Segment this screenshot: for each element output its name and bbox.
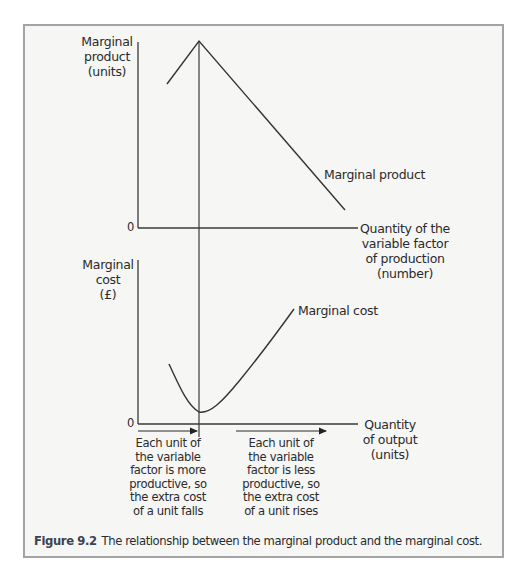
marginal-product-curve-label: Marginal product (324, 167, 425, 182)
marginal-cost-curve (169, 309, 294, 412)
top-x-axis-label: Quantity of the variable factor of produ… (354, 221, 456, 281)
left-annotation-line: factor is more (126, 464, 210, 478)
top-x-axis-label-line: (number) (354, 266, 456, 281)
top-y-axis-label: Marginal product (units) (78, 34, 136, 79)
right-annotation-line: the extra cost (239, 491, 323, 505)
right-annotation-line: Each unit of (239, 437, 323, 451)
right-annotation-line: productive, so (239, 478, 323, 492)
bottom-y-axis-label-line: (£) (82, 287, 134, 302)
bottom-x-axis-label-line: of output (356, 432, 424, 447)
left-annotation-line: Each unit of (126, 437, 210, 451)
bottom-y-axis-label: Marginal cost (£) (82, 257, 134, 302)
figure-caption: Figure 9.2The relationship between the m… (34, 534, 494, 548)
right-annotation-line: of a unit rises (239, 505, 323, 519)
right-annotation: Each unit of the variable factor is less… (239, 437, 323, 518)
bottom-x-axis-label-line: Quantity (356, 417, 424, 432)
top-x-axis-label-line: of production (354, 251, 456, 266)
top-x-axis-label-line: Quantity of the (354, 221, 456, 236)
marginal-cost-curve-label: Marginal cost (298, 303, 378, 318)
bottom-chart-axes (138, 260, 358, 424)
top-y-axis-label-line: product (78, 49, 136, 64)
left-annotation-line: the extra cost (126, 491, 210, 505)
top-chart-axes (138, 42, 358, 228)
bottom-y-axis-label-line: Marginal (82, 257, 134, 272)
bottom-y-axis-label-line: cost (82, 272, 134, 287)
left-annotation-line: the variable (126, 451, 210, 465)
right-annotation-line: factor is less (239, 464, 323, 478)
left-annotation-line: of a unit falls (126, 505, 210, 519)
left-annotation: Each unit of the variable factor is more… (126, 437, 210, 518)
top-y-axis-label-line: (units) (78, 64, 136, 79)
left-annotation-line: productive, so (126, 478, 210, 492)
top-x-axis-label-line: variable factor (354, 236, 456, 251)
marginal-product-curve (167, 41, 345, 210)
bottom-x-axis-label-line: (units) (356, 447, 424, 462)
bottom-x-axis-label: Quantity of output (units) (356, 417, 424, 462)
top-origin-label: 0 (127, 220, 134, 234)
top-y-axis-label-line: Marginal (78, 34, 136, 49)
figure-number: Figure 9.2 (34, 534, 97, 548)
bottom-origin-label: 0 (127, 416, 134, 430)
figure-caption-text: The relationship between the marginal pr… (102, 534, 482, 548)
right-annotation-line: the variable (239, 451, 323, 465)
